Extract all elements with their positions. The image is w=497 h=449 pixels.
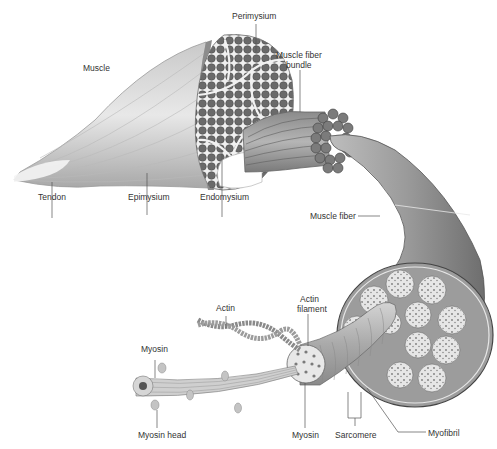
myosin-filament [133,363,298,413]
label-actin: Actin [216,303,235,313]
label-myofibril: Myofibril [428,428,460,438]
label-actin-filament-line1: Actin [300,294,319,304]
label-muscle-fiber-bundle-line2: bundle [286,60,312,70]
label-muscle-fiber-bundle-line1: Muscle fiber [276,50,322,60]
label-epimysium: Epimysium [128,192,170,202]
muscle-anatomy-diagram: Perimysium Muscle Muscle fiber bundle Te… [0,0,497,449]
muscle-body [14,40,214,190]
actin-helix [198,320,300,350]
sarcomere-bracket [348,392,361,426]
label-myosin-bottom: Myosin [292,430,319,440]
label-perimysium: Perimysium [232,11,276,21]
label-actin-filament-line2: filament [297,304,327,314]
label-tendon: Tendon [38,192,66,202]
label-muscle: Muscle [83,63,110,73]
label-endomysium: Endomysium [200,192,249,202]
label-muscle-fiber: Muscle fiber [310,211,356,221]
label-myosin-head: Myosin head [138,430,186,440]
muscle-illustration [0,0,497,449]
muscle-fiber [330,135,493,407]
label-sarcomere: Sarcomere [335,430,377,440]
label-myosin-top: Myosin [141,344,168,354]
